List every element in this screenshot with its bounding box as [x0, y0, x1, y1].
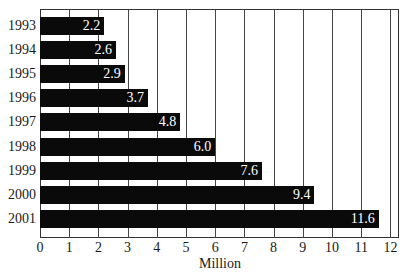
x-tick-label: 12	[378, 240, 402, 256]
y-category-label: 1995	[0, 65, 36, 83]
x-tick-label: 10	[320, 240, 344, 256]
y-category-label: 1997	[0, 113, 36, 131]
x-tick-label: 0	[28, 240, 52, 256]
x-tick-label: 7	[232, 240, 256, 256]
gridline	[332, 9, 333, 238]
y-category-label: 2000	[0, 186, 36, 204]
x-tick-label: 8	[262, 240, 286, 256]
x-tick-label: 9	[291, 240, 315, 256]
y-category-label: 1999	[0, 162, 36, 180]
x-tick-label: 5	[174, 240, 198, 256]
bar-1996: 3.7	[40, 89, 148, 107]
bar-1997: 4.8	[40, 113, 180, 131]
x-tick-label: 1	[57, 240, 81, 256]
bar-1999: 7.6	[40, 162, 262, 180]
y-category-label: 1994	[0, 41, 36, 59]
bar-chart: 2.22.62.93.74.86.07.69.411.6 19931994199…	[0, 0, 407, 276]
x-axis-title: Million	[190, 256, 250, 272]
bar-1995: 2.9	[40, 65, 125, 83]
x-tick-label: 6	[203, 240, 227, 256]
bar-2001: 11.6	[40, 210, 379, 228]
bar-1998: 6.0	[40, 138, 215, 156]
x-tick-label: 2	[86, 240, 110, 256]
y-category-label: 1993	[0, 17, 36, 35]
y-category-label: 2001	[0, 210, 36, 228]
x-tick-label: 3	[116, 240, 140, 256]
x-tick-label: 4	[145, 240, 169, 256]
bar-2000: 9.4	[40, 186, 314, 204]
x-tick-label: 11	[349, 240, 373, 256]
y-category-label: 1998	[0, 138, 36, 156]
y-category-label: 1996	[0, 89, 36, 107]
bar-1994: 2.6	[40, 41, 116, 59]
bar-1993: 2.2	[40, 17, 104, 35]
gridline	[390, 9, 391, 238]
gridline	[361, 9, 362, 238]
